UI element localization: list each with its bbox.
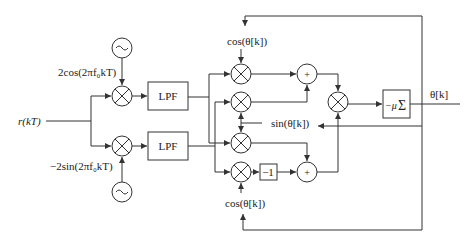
mixer-2-icon	[231, 92, 251, 112]
negate-label: −1	[262, 166, 274, 178]
lpf-top-label: LPF	[159, 90, 178, 102]
block-diagram: r(kT) 2cos(2πf₀kT) LPF LPF −2sin(2πf₀kT)	[0, 0, 466, 244]
cos-top-label: cos(θ[k])	[227, 35, 267, 48]
mixer-4-icon	[231, 162, 251, 182]
mixer-1-icon	[231, 64, 251, 84]
integrator-label: −μ	[385, 100, 397, 111]
adder-top-icon: +	[297, 64, 317, 84]
cos-bottom-label: cos(θ[k])	[225, 197, 265, 210]
oscillator-top-label: 2cos(2πf₀kT)	[58, 66, 117, 79]
lpf-distribution-wires	[188, 74, 230, 172]
svg-text:+: +	[304, 69, 310, 80]
lpf-bottom-label: LPF	[159, 140, 178, 152]
sin-label: sin(θ[k])	[271, 117, 310, 130]
sigma-icon: Σ	[398, 98, 406, 113]
svg-text:+: +	[304, 167, 310, 178]
mixer-top-icon	[112, 86, 132, 106]
adder-bottom-icon: +	[297, 162, 317, 182]
output-label: θ[k]	[430, 88, 448, 100]
mixer-error-icon	[328, 92, 348, 112]
oscillator-bottom-icon	[112, 182, 132, 202]
input-wire	[46, 96, 111, 146]
oscillator-bottom-label: −2sin(2πf₀kT)	[50, 160, 113, 173]
mixer-3-icon	[231, 133, 251, 153]
mixer-bottom-icon	[112, 136, 132, 156]
oscillator-top-icon	[112, 38, 132, 58]
input-label: r(kT)	[18, 115, 41, 128]
feedback-wires	[243, 16, 422, 230]
